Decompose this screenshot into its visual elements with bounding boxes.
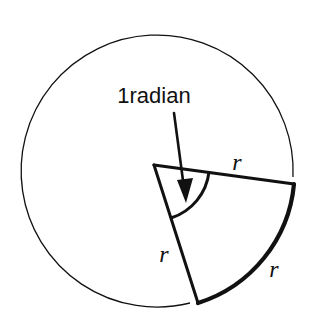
radian-diagram: 1radian r r r: [0, 0, 312, 325]
pointer-arrow-icon: [174, 113, 193, 203]
sector: [154, 165, 294, 303]
radius-top: [154, 165, 294, 184]
arc-length-r: [198, 184, 294, 303]
r-label-top: r: [232, 149, 242, 175]
r-label-left: r: [159, 241, 169, 267]
r-label-arc: r: [269, 256, 279, 282]
radius-left: [154, 165, 198, 303]
radian-label: 1radian: [117, 83, 190, 108]
